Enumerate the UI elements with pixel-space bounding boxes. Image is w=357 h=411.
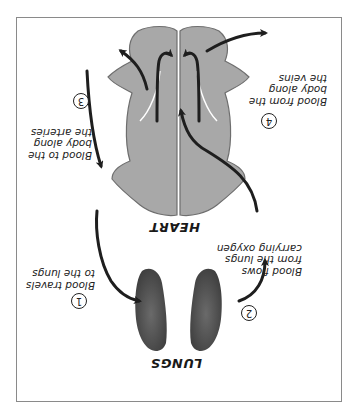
step-4-caption: Blood from the body along the veins [249,73,327,108]
step-3-caption: Blood to the body along the arteries [28,127,92,162]
heart-illustration [108,27,249,216]
step-4-badge: 4 [261,113,277,129]
lungs-label: LUNGS [150,356,202,371]
arrow-to-lungs [97,211,139,301]
left-lung [190,269,222,351]
step-2-badge: 2 [241,305,257,321]
heart-left-half [180,27,249,216]
right-lung [135,269,167,351]
heart-label: HEART [149,220,200,235]
lungs-illustration [135,269,222,351]
step-3-badge: 3 [73,93,89,109]
step-1-caption: Blood travels to the lungs [26,268,95,291]
diagram-artwork [0,0,357,411]
step-2-caption: Blood flows from the lungs carrying oxyg… [217,243,302,278]
step-1-badge: 1 [71,293,87,309]
heart-right-half [108,27,177,216]
circulation-diagram: LUNGS HEART 1 Blood travels to the lungs… [0,0,357,411]
